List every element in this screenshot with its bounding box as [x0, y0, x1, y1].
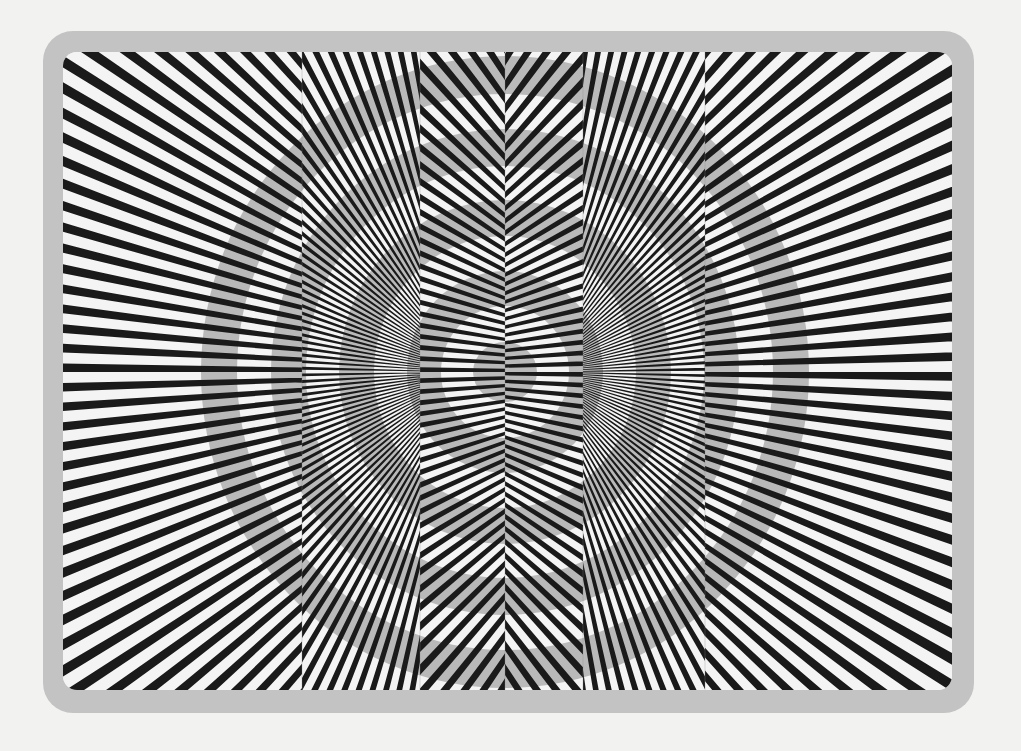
- radiating-stripes-with-rings: [63, 52, 952, 690]
- illusion-artwork: [63, 52, 952, 690]
